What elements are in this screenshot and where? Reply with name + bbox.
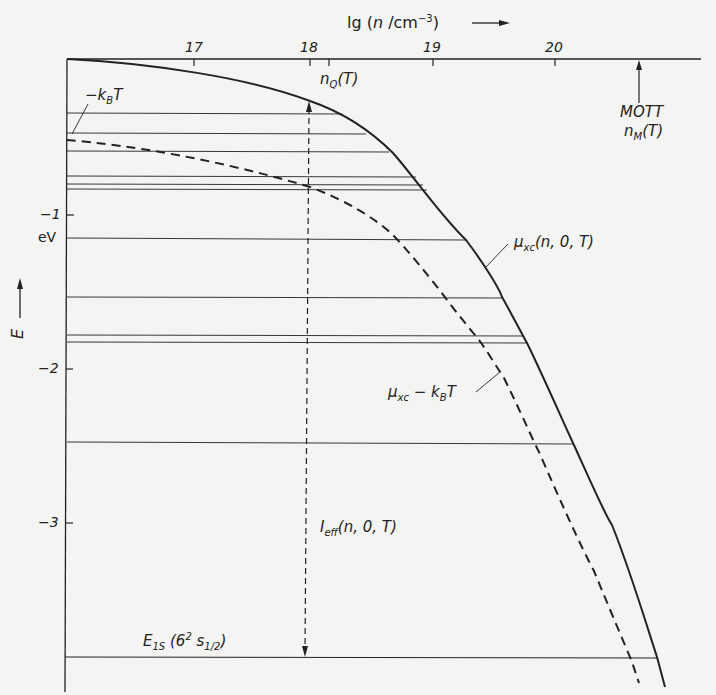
label-mott: MOTT [620,105,663,120]
muxc-leader [485,244,508,268]
label-minus-kbt: −kBT [85,88,122,106]
label-mu-xc: μxc(n, 0, T) [514,235,594,253]
xaxis-arrow-head [499,20,510,26]
xtick-label-19: 19 [423,40,441,54]
curve-mu-xc-minus-kbt [67,140,639,683]
label-mu-xc-minus-kbt: μxc − kBT [388,385,456,403]
ieff-arrow-head-bottom [302,646,308,657]
yaxis-arrow-head [17,278,23,289]
kbt-leader [72,104,88,134]
ieff-arrow-head-top [306,101,312,112]
y-unit-label: eV [38,230,56,244]
ytick-label-1: −1 [40,207,61,221]
muxc2-leader [476,372,500,392]
ytick-label-2: −2 [38,361,59,375]
ground-level-e1s [65,657,657,658]
curve-mu-xc [67,59,665,687]
energy-levels [67,113,573,444]
xtick-label-18: 18 [300,40,318,54]
y-axis-title: E [10,329,26,339]
mott-arrow-head [636,60,642,70]
label-nm: nM(T) [624,124,663,142]
label-e1s: E1S (62 s1/2) [143,632,226,652]
x-axis-title: lg (n /cm−3) [347,14,439,31]
xtick-label-20: 20 [545,40,563,54]
xtick-label-17: 17 [185,40,203,54]
label-ieff: Ieff(n, 0, T) [320,520,397,538]
label-nq: nQ(T) [320,72,358,90]
left-y-axis [65,59,67,692]
ytick-label-3: −3 [38,515,59,529]
